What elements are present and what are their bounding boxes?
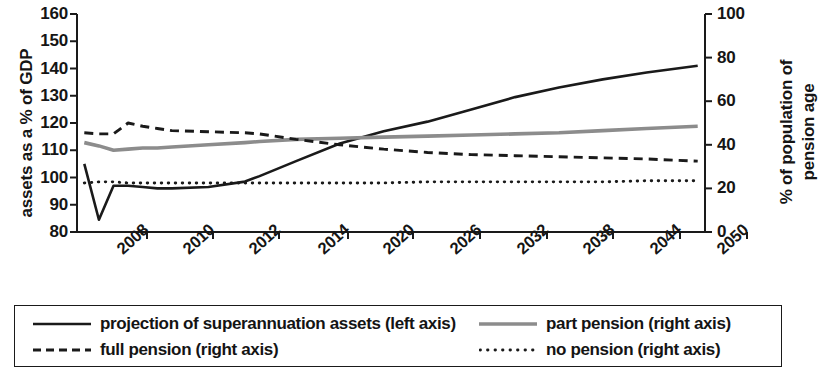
y2-axis-tick-60: 60 [717, 91, 736, 111]
y2-axis-tick-40: 40 [717, 135, 736, 155]
legend-label-no-pension: no pension (right axis) [546, 340, 720, 360]
legend-row-bottom: full pension (right axis) [33, 338, 278, 362]
legend-label-part-pension: part pension (right axis) [546, 314, 731, 334]
y2-axis-tick-80: 80 [717, 48, 736, 68]
legend-row-top-right: part pension (right axis) [479, 312, 731, 336]
series-line [84, 181, 697, 183]
legend-entry-part-pension: part pension (right axis) [479, 312, 731, 336]
legend-row-bottom-right: no pension (right axis) [479, 338, 720, 362]
legend-entry-no-pension: no pension (right axis) [479, 338, 720, 362]
y2-axis-title-line-2: pension age [799, 17, 819, 247]
legend-entry-full-pension: full pension (right axis) [33, 338, 278, 362]
data-series-group [84, 66, 697, 220]
y2-axis-title-line-1: % of population of [777, 17, 797, 247]
legend-swatch-full-pension-icon [33, 343, 91, 357]
legend-row-top: projection of superannuation assets (lef… [33, 312, 456, 336]
legend-label-assets: projection of superannuation assets (lef… [100, 314, 456, 334]
y2-axis-tick-100: 100 [717, 4, 745, 24]
plot-area: 160 150 140 130 120 110 100 90 80 100 80… [0, 0, 812, 295]
legend-swatch-part-pension-icon [479, 317, 537, 331]
legend-swatch-assets-icon [33, 317, 91, 331]
y2-axis-tick-20: 20 [717, 178, 736, 198]
series-line [84, 66, 697, 220]
legend-swatch-no-pension-icon [479, 343, 537, 357]
legend-label-full-pension: full pension (right axis) [100, 340, 278, 360]
chart-legend: projection of superannuation assets (lef… [14, 305, 782, 367]
legend-entry-assets: projection of superannuation assets (lef… [33, 312, 456, 336]
y-axis-title: assets as a % of GDP [17, 18, 37, 248]
